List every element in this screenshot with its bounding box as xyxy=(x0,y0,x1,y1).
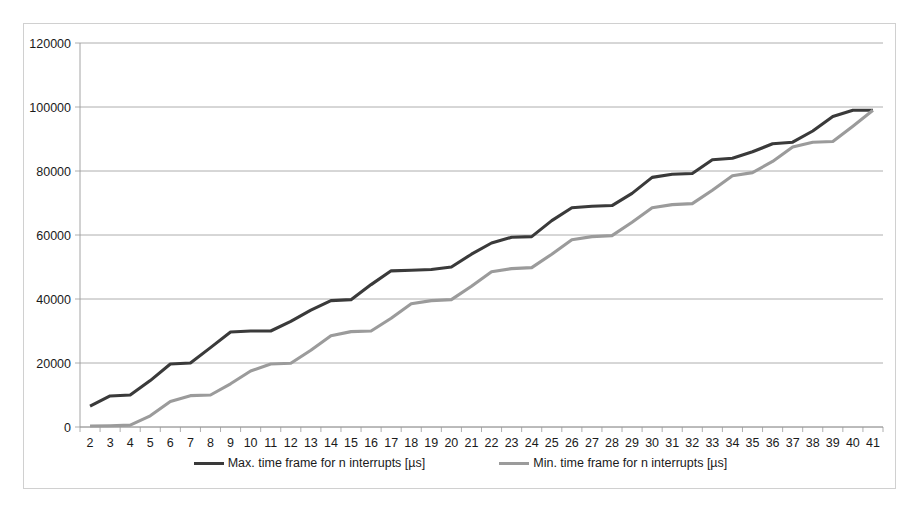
x-axis-label: 37 xyxy=(786,436,800,450)
legend-label-min: Min. time frame for n interrupts [µs] xyxy=(533,456,727,470)
x-axis-label: 36 xyxy=(766,436,780,450)
x-axis-label: 35 xyxy=(746,436,760,450)
x-axis-label: 40 xyxy=(846,436,860,450)
y-axis-label: 20000 xyxy=(36,357,71,371)
x-axis-label: 38 xyxy=(806,436,820,450)
y-axis-label: 100000 xyxy=(29,101,71,115)
x-axis-label: 6 xyxy=(167,436,174,450)
x-axis-label: 10 xyxy=(244,436,258,450)
x-axis-label: 41 xyxy=(866,436,880,450)
legend-item-min: Min. time frame for n interrupts [µs] xyxy=(499,456,727,470)
x-axis-label: 4 xyxy=(127,436,134,450)
x-axis-label: 34 xyxy=(725,436,739,450)
legend-swatch-min xyxy=(499,462,529,465)
y-axis-label: 0 xyxy=(64,421,71,435)
x-axis-label: 5 xyxy=(147,436,154,450)
x-axis-label: 3 xyxy=(107,436,114,450)
x-axis-label: 24 xyxy=(525,436,539,450)
x-axis-label: 31 xyxy=(665,436,679,450)
x-axis-label: 22 xyxy=(485,436,499,450)
x-axis-label: 33 xyxy=(705,436,719,450)
x-axis-label: 27 xyxy=(585,436,599,450)
chart-container: 0200004000060000800001000001200002345678… xyxy=(23,23,896,489)
x-axis-label: 21 xyxy=(465,436,479,450)
chart-plot-area: 0200004000060000800001000001200002345678… xyxy=(24,24,897,456)
x-axis-label: 39 xyxy=(826,436,840,450)
x-axis-label: 20 xyxy=(444,436,458,450)
x-axis-label: 25 xyxy=(545,436,559,450)
x-axis-label: 7 xyxy=(187,436,194,450)
x-axis-label: 16 xyxy=(364,436,378,450)
y-axis-label: 120000 xyxy=(29,37,71,51)
x-axis-label: 26 xyxy=(565,436,579,450)
x-axis-label: 9 xyxy=(227,436,234,450)
x-axis-label: 8 xyxy=(207,436,214,450)
series-line-max xyxy=(90,110,873,406)
y-axis-label: 40000 xyxy=(36,293,71,307)
legend-label-max: Max. time frame for n interrupts [µs] xyxy=(228,456,426,470)
x-axis-label: 12 xyxy=(284,436,298,450)
x-axis-label: 17 xyxy=(384,436,398,450)
legend-swatch-max xyxy=(194,462,224,465)
x-axis-label: 19 xyxy=(424,436,438,450)
x-axis-label: 29 xyxy=(625,436,639,450)
x-axis-label: 2 xyxy=(87,436,94,450)
x-axis-label: 30 xyxy=(645,436,659,450)
x-axis-label: 14 xyxy=(324,436,338,450)
x-axis-label: 11 xyxy=(264,436,277,450)
x-axis-label: 23 xyxy=(505,436,519,450)
x-axis-label: 28 xyxy=(605,436,619,450)
series-line-min xyxy=(90,110,873,426)
x-axis-label: 18 xyxy=(404,436,418,450)
chart-legend: Max. time frame for n interrupts [µs] Mi… xyxy=(24,456,897,470)
y-axis-label: 80000 xyxy=(36,165,71,179)
legend-item-max: Max. time frame for n interrupts [µs] xyxy=(194,456,426,470)
y-axis-label: 60000 xyxy=(36,229,71,243)
x-axis-label: 32 xyxy=(685,436,699,450)
x-axis-label: 13 xyxy=(304,436,318,450)
x-axis-label: 15 xyxy=(344,436,358,450)
